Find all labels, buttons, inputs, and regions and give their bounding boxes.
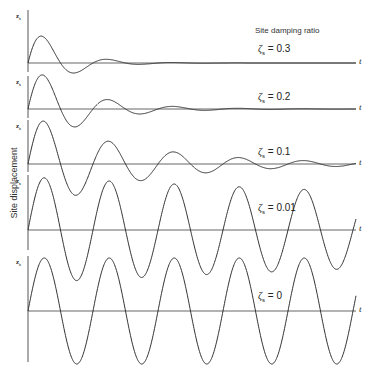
axis-symbol: zs (16, 12, 21, 21)
displacement-curve (28, 121, 356, 195)
curves-group (28, 36, 356, 364)
legend-title: Site damping ratio (255, 26, 319, 35)
time-axis-label: t (359, 102, 362, 112)
damping-ratio-label: ζs = 0.1 (258, 146, 290, 159)
time-axis-label: t (359, 157, 362, 167)
axis-symbol: zs (16, 258, 21, 267)
time-axis-label: t (359, 223, 362, 233)
damping-ratio-label: ζs = 0 (258, 290, 282, 303)
time-axis-label: t (359, 304, 362, 314)
axis-symbol: zs (16, 177, 21, 186)
axis-symbol: zs (16, 78, 21, 87)
damping-ratio-label: ζs = 0.3 (258, 43, 290, 56)
damped-oscillation-figure (0, 0, 370, 370)
displacement-curve (28, 178, 356, 281)
time-axis-label: t (359, 56, 362, 66)
axis-symbol: zs (16, 122, 21, 131)
displacement-curve (28, 36, 356, 73)
damping-ratio-label: ζs = 0.2 (258, 91, 290, 104)
displacement-curve (28, 75, 356, 127)
damping-ratio-label: ζs = 0.01 (258, 202, 296, 215)
